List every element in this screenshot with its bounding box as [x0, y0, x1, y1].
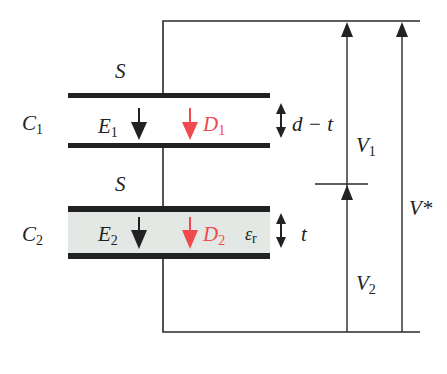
v2-label: V2	[356, 271, 376, 297]
c1-top-plate	[68, 93, 270, 98]
v2-arrowhead-icon	[341, 185, 353, 200]
area-label-bottom: S	[115, 172, 126, 196]
c1-label: C1	[22, 111, 43, 137]
d1-label: D1	[202, 112, 225, 138]
vtotal-arrowhead-icon	[396, 22, 408, 37]
c1-bottom-plate	[68, 143, 270, 148]
e1-label: E1	[97, 114, 118, 140]
gap2-dimension-icon	[276, 213, 286, 248]
d1-arrow-icon	[182, 108, 198, 140]
e1-arrow-icon	[131, 108, 147, 140]
area-label-top: S	[115, 59, 126, 83]
gap1-label: d − t	[292, 112, 334, 136]
gap1-dimension-icon	[276, 103, 286, 138]
c2-bottom-plate	[68, 253, 270, 259]
vtotal-label: V*	[409, 196, 433, 220]
capacitor-diagram: S S C1 C2 E1 D1 E2 D2 εr d − t t V1 V2 V…	[0, 0, 447, 374]
c2-top-plate	[68, 206, 270, 212]
gap2-label: t	[301, 222, 308, 246]
v1-label: V1	[356, 133, 376, 159]
circuit-wires	[163, 21, 420, 332]
v1-arrowhead-icon	[341, 22, 353, 37]
c2-label: C2	[22, 222, 43, 248]
